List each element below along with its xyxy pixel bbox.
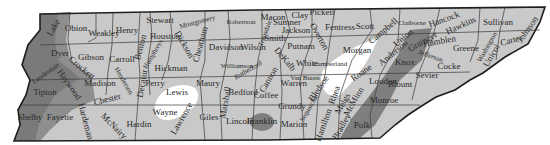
county-label-fentress: Fentress xyxy=(325,22,355,32)
county-label-davidson: Davidson xyxy=(209,42,244,52)
county-label-polk: Polk xyxy=(354,120,371,130)
county-label-carroll: Carroll xyxy=(109,54,135,64)
county-label-loudon: Loudon xyxy=(369,76,397,86)
county-label-sullivan: Sullivan xyxy=(483,17,514,27)
tennessee-county-map: ObionWeakleyHenryStewartMontgomeryRobert… xyxy=(0,0,550,145)
county-label-knox: Knox xyxy=(395,57,415,67)
county-label-robertson: Robertson xyxy=(227,18,256,26)
county-label-grundy: Grundy xyxy=(278,101,306,111)
county-label-perry: Perry xyxy=(145,78,165,88)
county-label-obion: Obion xyxy=(65,23,88,33)
county-label-monroe: Monroe xyxy=(370,95,399,105)
county-label-dyer: Dyer xyxy=(51,48,69,58)
county-label-macon: Macon xyxy=(261,12,286,22)
county-label-clay: Clay xyxy=(292,10,309,20)
county-label-shelby: Shelby xyxy=(17,112,43,122)
county-label-hickman: Hickman xyxy=(155,63,188,73)
county-label-white: White xyxy=(296,58,318,68)
county-label-claiborne: Claiborne xyxy=(398,19,426,27)
county-label-scott: Scott xyxy=(356,21,375,31)
county-label-morgan: Morgan xyxy=(343,45,372,55)
county-label-pickett: Pickett xyxy=(310,7,335,17)
county-label-houston: Houston xyxy=(150,31,181,41)
county-label-hardin: Hardin xyxy=(127,119,152,129)
county-label-madison: Madison xyxy=(84,78,116,88)
county-label-coffee: Coffee xyxy=(254,90,278,100)
county-label-wayne: Wayne xyxy=(153,107,178,117)
county-label-stewart: Stewart xyxy=(146,15,174,25)
county-label-lewis: Lewis xyxy=(166,87,188,97)
county-label-franklin: Franklin xyxy=(247,116,278,126)
county-label-marion: Marion xyxy=(281,119,308,129)
county-label-cocke: Cocke xyxy=(438,61,461,71)
county-label-giles: Giles xyxy=(200,112,219,122)
county-label-greene: Greene xyxy=(453,43,479,53)
county-label-henry: Henry xyxy=(116,25,139,35)
county-label-maury: Maury xyxy=(196,78,220,88)
county-label-putnam: Putnam xyxy=(287,41,315,51)
county-label-sevier: Sevier xyxy=(416,70,439,80)
county-label-tipton: Tipton xyxy=(33,87,57,97)
county-label-jackson: Jackson xyxy=(282,25,311,35)
county-label-fayette: Fayette xyxy=(47,112,74,122)
county-label-van-buren: Van Buren xyxy=(290,74,320,82)
